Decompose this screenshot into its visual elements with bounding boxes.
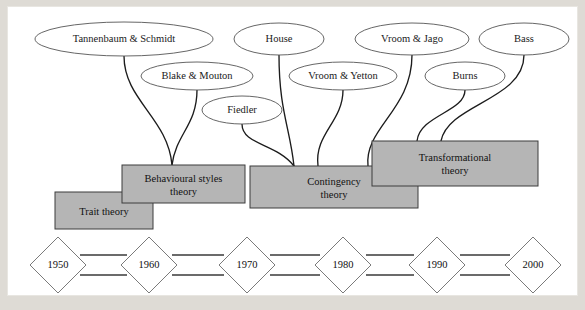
connector-burns-to-transformational [417, 90, 465, 141]
connector-fiedler-to-contingency [242, 124, 294, 166]
theorist-ellipse-blake-mouton[interactable]: Blake & Mouton [141, 62, 253, 90]
theorist-label: Fiedler [227, 104, 257, 115]
theory-box-label: Contingency [307, 176, 361, 187]
theorist-label: Bass [514, 33, 534, 44]
theorist-ellipses-layer: Tannenbaum & SchmidtHouseVroom & JagoBas… [35, 22, 569, 124]
theorist-ellipse-vroom-jago[interactable]: Vroom & Jago [355, 23, 469, 55]
theory-box-label: theory [442, 165, 470, 176]
timeline-diamond-1950[interactable]: 1950 [30, 237, 86, 293]
timeline-year-label: 1970 [237, 259, 258, 270]
theory-box-label: theory [170, 186, 198, 197]
theorist-ellipse-bass[interactable]: Bass [479, 23, 569, 55]
timeline-diamond-1960[interactable]: 1960 [121, 237, 177, 293]
timeline-diamonds-layer: 195019601970198019902000 [30, 237, 561, 293]
theorist-label: Vroom & Jago [381, 33, 443, 44]
theorist-label: Burns [452, 70, 477, 81]
theorist-ellipse-vroom-yetton[interactable]: Vroom & Yetton [289, 62, 397, 90]
theory-boxes-layer: Trait theoryBehavioural stylestheoryCont… [55, 141, 538, 229]
connector-blake-mouton-to-behavioural [172, 90, 197, 165]
timeline-year-label: 1980 [333, 259, 354, 270]
theorist-ellipse-burns[interactable]: Burns [425, 62, 505, 90]
theory-box-label: Transformational [419, 152, 492, 163]
timeline-diamond-1980[interactable]: 1980 [315, 237, 371, 293]
timeline-diamond-1970[interactable]: 1970 [219, 237, 275, 293]
diagram-canvas: Trait theoryBehavioural stylestheoryCont… [8, 7, 577, 295]
connector-vroom-yetton-to-contingency [318, 90, 343, 166]
theorist-ellipse-tannenbaum-schmidt[interactable]: Tannenbaum & Schmidt [35, 22, 213, 56]
theorist-label: Tannenbaum & Schmidt [73, 33, 176, 44]
theory-box-label: Trait theory [79, 206, 129, 217]
theorist-label: Blake & Mouton [161, 70, 233, 81]
theorist-label: House [266, 33, 293, 44]
theory-box-behavioural-styles-theory[interactable]: Behavioural stylestheory [122, 165, 245, 203]
timeline-year-label: 1990 [427, 259, 448, 270]
theory-box-label: theory [321, 189, 349, 200]
timeline-diamond-2000[interactable]: 2000 [505, 237, 561, 293]
theorist-ellipse-fiedler[interactable]: Fiedler [202, 96, 282, 124]
timeline-diamond-1990[interactable]: 1990 [409, 237, 465, 293]
theorist-label: Vroom & Yetton [308, 70, 378, 81]
page-root: Trait theoryBehavioural stylestheoryCont… [0, 0, 585, 310]
leadership-theory-timeline-diagram: Trait theoryBehavioural stylestheoryCont… [8, 7, 577, 295]
timeline-year-label: 1960 [139, 259, 160, 270]
theory-box-transformational-theory[interactable]: Transformationaltheory [372, 141, 538, 186]
timeline-year-label: 2000 [523, 259, 544, 270]
theorist-ellipse-house[interactable]: House [234, 23, 324, 55]
timeline-year-label: 1950 [48, 259, 69, 270]
theory-box-label: Behavioural styles [145, 173, 223, 184]
